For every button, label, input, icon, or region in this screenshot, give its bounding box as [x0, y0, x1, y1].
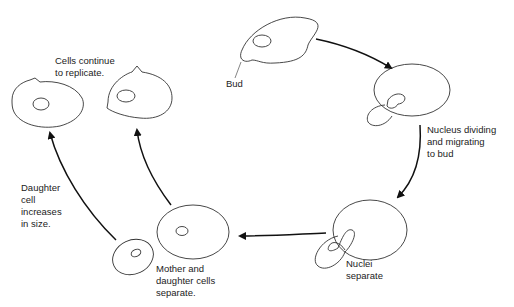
arrow-separate-to-cells	[240, 233, 326, 236]
label-nuclei-separate: Nuclei separate	[346, 258, 383, 282]
label-nucleus-dividing: Nucleus dividing and migrating to bud	[427, 124, 496, 160]
label-daughter-grows: Daughter cell increases in size.	[21, 182, 62, 230]
yeast-budding-diagram: Bud Nucleus dividing and migrating to bu…	[0, 0, 514, 307]
cell-nucleus-dividing	[367, 64, 450, 126]
cell-daughter	[107, 233, 159, 282]
cell-bud-stage	[235, 17, 318, 78]
cell-replicating-right	[107, 66, 172, 118]
arrow-mother-to-replicate	[137, 130, 171, 205]
arrow-bud-to-dividing	[316, 39, 391, 68]
label-bud: Bud	[226, 78, 243, 90]
label-replicate: Cells continue to replicate.	[55, 55, 115, 79]
arrow-dividing-to-separate	[398, 125, 420, 197]
cell-mother	[157, 205, 229, 259]
label-cells-separate: Mother and daughter cells separate.	[156, 263, 215, 299]
cell-replicating-left	[12, 78, 83, 127]
